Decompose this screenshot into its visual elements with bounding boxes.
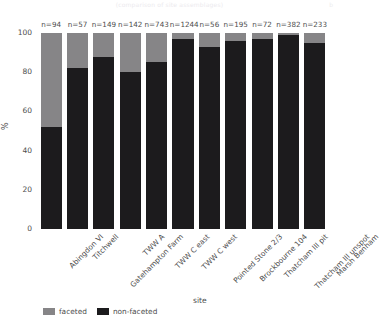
- sample-size-label-3: n=142: [117, 21, 143, 29]
- bar-segment-non-faceted[interactable]: [172, 39, 193, 229]
- y-axis-tick-40: 40: [0, 147, 32, 155]
- bar-titchwell[interactable]: [67, 33, 88, 229]
- bar-segment-faceted[interactable]: [278, 33, 299, 35]
- bar-segment-non-faceted[interactable]: [146, 62, 167, 229]
- legend-item-non-faceted[interactable]: non-faceted: [97, 307, 157, 316]
- x-axis-title: site: [193, 296, 207, 305]
- sample-size-label-5: n=1244: [170, 21, 196, 29]
- y-axis-tick-100: 100: [0, 29, 32, 37]
- plot-panel: [38, 33, 328, 229]
- bar-thatcham-iii-pit[interactable]: [252, 33, 273, 229]
- bar-segment-non-faceted[interactable]: [252, 39, 273, 229]
- bar-segment-non-faceted[interactable]: [199, 47, 220, 229]
- bar-segment-faceted[interactable]: [225, 33, 246, 41]
- bar-segment-faceted[interactable]: [146, 33, 167, 62]
- bar-segment-faceted[interactable]: [41, 33, 62, 127]
- y-axis-title: %: [1, 122, 10, 130]
- figure-caption-top: (comparison of site assemblages): [0, 0, 339, 9]
- legend-swatch-faceted: [43, 308, 55, 315]
- sample-size-label-10: n=233: [302, 21, 328, 29]
- bar-segment-faceted[interactable]: [67, 33, 88, 68]
- bar-marsh-benham[interactable]: [304, 33, 325, 229]
- sample-size-label-9: n=382: [275, 21, 301, 29]
- y-axis-tick-80: 80: [0, 68, 32, 76]
- bar-segment-non-faceted[interactable]: [67, 68, 88, 229]
- y-axis-tick-20: 20: [0, 186, 32, 194]
- bar-segment-faceted[interactable]: [93, 33, 114, 57]
- bar-segment-faceted[interactable]: [120, 33, 141, 72]
- legend-label-non-faceted: non-faceted: [113, 307, 157, 316]
- sample-size-label-0: n=94: [38, 21, 64, 29]
- sample-size-label-1: n=57: [64, 21, 90, 29]
- y-axis-tick-0: 0: [0, 225, 32, 233]
- legend-label-faceted: faceted: [59, 307, 87, 316]
- bar-segment-non-faceted[interactable]: [93, 57, 114, 229]
- bar-gatehampton-farm[interactable]: [93, 33, 114, 229]
- sample-size-label-7: n=195: [223, 21, 249, 29]
- y-axis: %: [0, 0, 35, 330]
- bar-segment-faceted[interactable]: [199, 33, 220, 47]
- sample-size-label-2: n=149: [91, 21, 117, 29]
- bar-tww-a[interactable]: [120, 33, 141, 229]
- sample-size-label-8: n=72: [249, 21, 275, 29]
- legend-swatch-non-faceted: [97, 308, 109, 315]
- figure-panel-letter: b: [329, 0, 333, 9]
- bar-segment-faceted[interactable]: [252, 33, 273, 39]
- y-axis-tick-60: 60: [0, 107, 32, 115]
- bar-tww-c-east[interactable]: [146, 33, 167, 229]
- bar-segment-non-faceted[interactable]: [41, 127, 62, 229]
- bar-segment-non-faceted[interactable]: [120, 72, 141, 229]
- bar-tww-c-west[interactable]: [172, 33, 193, 229]
- bar-segment-non-faceted[interactable]: [304, 43, 325, 229]
- bar-segment-non-faceted[interactable]: [225, 41, 246, 229]
- bar-segment-faceted[interactable]: [304, 33, 325, 43]
- bar-segment-faceted[interactable]: [172, 33, 193, 39]
- legend-item-faceted[interactable]: faceted: [43, 307, 87, 316]
- bar-segment-non-faceted[interactable]: [278, 35, 299, 229]
- bar-pointed-stone-2-3[interactable]: [199, 33, 220, 229]
- sample-size-label-6: n=56: [196, 21, 222, 29]
- bar-thatcham-iii-unspot[interactable]: [278, 33, 299, 229]
- sample-size-label-4: n=743: [143, 21, 169, 29]
- bar-abingdon-vi[interactable]: [41, 33, 62, 229]
- legend: faceted non-faceted: [43, 307, 157, 316]
- bar-brockbourne-104[interactable]: [225, 33, 246, 229]
